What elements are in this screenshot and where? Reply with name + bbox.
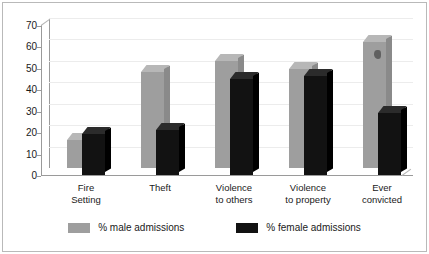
- y-tick-mark: [37, 69, 41, 70]
- y-axis-ticks: 706050403020100: [1, 18, 37, 176]
- bar-side-face: [253, 72, 259, 172]
- legend-label: % female admissions: [266, 223, 360, 233]
- bar-front-face: [304, 76, 327, 175]
- x-axis-labels: FireSettingTheftViolenceto othersViolenc…: [41, 182, 413, 210]
- bar-female: [156, 130, 179, 175]
- bar-female: [82, 134, 105, 175]
- bar-side-face: [105, 128, 111, 172]
- y-tick-label: 10: [3, 150, 37, 160]
- legend-swatch-male: [68, 223, 90, 233]
- y-tick-label: 0: [3, 171, 37, 181]
- chart-figure: 706050403020100 FireSettingTheftViolence…: [0, 0, 429, 254]
- legend-swatch-female: [236, 223, 258, 233]
- y-tick-mark: [37, 155, 41, 156]
- bar-front-face: [82, 134, 105, 175]
- y-tick-label: 70: [3, 21, 37, 31]
- y-tick-mark: [37, 133, 41, 134]
- scan-artifact: [374, 50, 381, 59]
- bar-front-face: [378, 113, 401, 175]
- y-tick-label: 50: [3, 64, 37, 74]
- x-axis-line: [41, 175, 413, 176]
- bar-group: [207, 25, 261, 175]
- plot-area: [41, 18, 413, 176]
- bar-group: [133, 25, 187, 175]
- y-tick-mark: [37, 176, 41, 177]
- chart-legend: % male admissions% female admissions: [0, 218, 429, 238]
- bar-female: [304, 76, 327, 175]
- x-tick-label: Everconvicted: [339, 182, 425, 206]
- bar-front-face: [230, 79, 253, 175]
- legend-item-male[interactable]: % male admissions: [68, 223, 184, 233]
- legend-label: % male admissions: [98, 223, 184, 233]
- y-tick-label: 40: [3, 85, 37, 95]
- bar-side-face: [179, 123, 185, 172]
- y-tick-mark: [37, 47, 41, 48]
- y-tick-label: 20: [3, 128, 37, 138]
- bar-group: [355, 25, 409, 175]
- bar-side-face: [327, 70, 333, 172]
- y-tick-mark: [37, 112, 41, 113]
- y-tick-label: 60: [3, 42, 37, 52]
- y-tick-mark: [37, 26, 41, 27]
- bar-side-face: [401, 106, 407, 172]
- bar-group: [281, 25, 335, 175]
- bar-front-face: [156, 130, 179, 175]
- legend-item-female[interactable]: % female admissions: [236, 223, 360, 233]
- bar-female: [230, 79, 253, 175]
- bar-group: [59, 25, 113, 175]
- y-axis-line: [41, 25, 42, 176]
- bar-female: [378, 113, 401, 175]
- gridline: [49, 18, 413, 19]
- y-tick-mark: [37, 90, 41, 91]
- y-tick-label: 30: [3, 107, 37, 117]
